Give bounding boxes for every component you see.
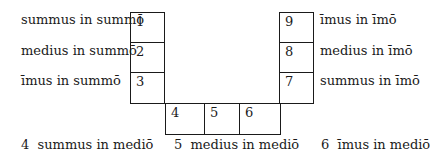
couch-position-5: 5 <box>204 103 240 135</box>
position-number: 6 <box>245 106 253 120</box>
position-number: 7 <box>285 75 293 89</box>
label-position-5: 5 medius in mediō <box>174 137 299 152</box>
couch-position-8: 8 <box>279 42 314 73</box>
couch-position-7: 7 <box>279 72 314 104</box>
label-position-3: īmus in summō <box>21 73 121 88</box>
label-position-2: medius in summō <box>21 43 137 58</box>
label-position-1: summus in summō <box>21 12 144 27</box>
position-number: 5 <box>210 106 218 120</box>
label-position-7: summus in īmō <box>320 73 420 88</box>
couch-position-3: 3 <box>130 72 165 104</box>
position-number: 8 <box>285 45 293 59</box>
couch-position-4: 4 <box>165 103 205 135</box>
position-number: 3 <box>136 75 144 89</box>
position-number: 4 <box>171 106 179 120</box>
couch-position-6: 6 <box>239 103 281 135</box>
label-position-9: īmus in īmō <box>320 12 397 27</box>
label-position-8: medius in īmō <box>320 43 413 58</box>
label-position-4: 4 summus in mediō <box>21 137 153 152</box>
position-number: 9 <box>285 15 293 29</box>
label-position-6: 6 īmus in mediō <box>321 137 430 152</box>
position-number: 2 <box>136 45 144 59</box>
couch-position-9: 9 <box>279 12 314 43</box>
